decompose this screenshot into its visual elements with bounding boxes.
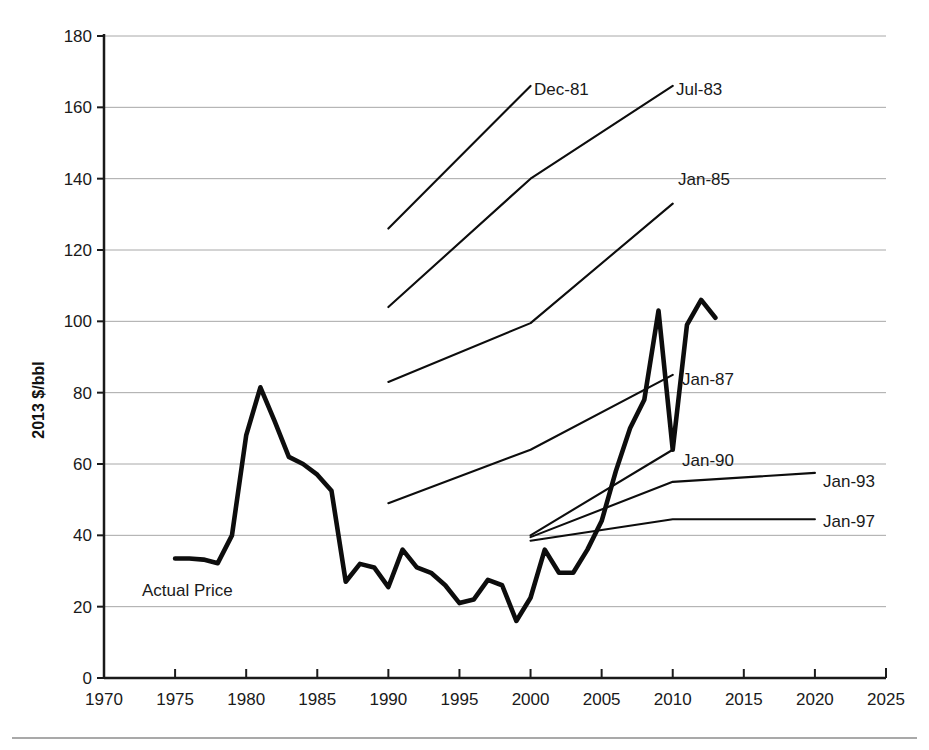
y-tick-label-120: 120 <box>64 241 92 260</box>
annotation-jan-85: Jan-85 <box>678 170 730 189</box>
chart-page: 020406080100120140160180 197019751980198… <box>0 0 929 750</box>
x-tick-label-2000: 2000 <box>512 690 550 709</box>
x-tick-label-1990: 1990 <box>369 690 407 709</box>
annotation-jan-87: Jan-87 <box>682 370 734 389</box>
annotation-jan-93: Jan-93 <box>823 472 875 491</box>
y-tick-label-140: 140 <box>64 170 92 189</box>
x-tick-label-2025: 2025 <box>867 690 905 709</box>
x-tick-label-1995: 1995 <box>441 690 479 709</box>
y-tick-label-60: 60 <box>73 455 92 474</box>
y-tick-label-40: 40 <box>73 526 92 545</box>
x-tick-label-2010: 2010 <box>654 690 692 709</box>
x-tick-label-2015: 2015 <box>725 690 763 709</box>
annotation-jan-97: Jan-97 <box>823 512 875 531</box>
annotation-jan-90: Jan-90 <box>682 451 734 470</box>
annotation-dec-81: Dec-81 <box>534 80 589 99</box>
y-tick-label-180: 180 <box>64 27 92 46</box>
x-tick-label-2005: 2005 <box>583 690 621 709</box>
y-tick-label-80: 80 <box>73 384 92 403</box>
x-tick-label-1980: 1980 <box>227 690 265 709</box>
annotation-actual-price: Actual Price <box>142 581 233 600</box>
x-tick-label-1985: 1985 <box>298 690 336 709</box>
y-axis-title: 2013 $/bbl <box>30 361 47 438</box>
y-tick-label-0: 0 <box>83 669 92 688</box>
annotation-jul-83: Jul-83 <box>676 80 722 99</box>
y-tick-label-160: 160 <box>64 98 92 117</box>
oil-price-forecast-chart: 020406080100120140160180 197019751980198… <box>0 0 929 750</box>
x-tick-label-1975: 1975 <box>156 690 194 709</box>
y-tick-label-20: 20 <box>73 598 92 617</box>
y-tick-label-100: 100 <box>64 312 92 331</box>
x-tick-label-1970: 1970 <box>85 690 123 709</box>
x-tick-label-2020: 2020 <box>796 690 834 709</box>
chart-background <box>0 0 929 750</box>
